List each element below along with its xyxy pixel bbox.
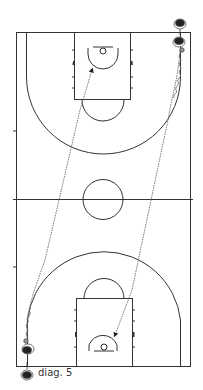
bottom-free-throw-arc [84,279,124,299]
bottom-hoop [101,344,107,350]
bottom-restricted-arc [89,335,117,351]
diagram-caption: diag. 5 [38,367,72,378]
top-three-point-line [27,33,181,155]
player-bottom-left-outside [21,362,33,380]
dribble-path-bottom-left-to-top-basket [27,70,92,340]
bottom-three-point-line [28,252,181,367]
bottom-lane-hashes [74,310,135,347]
top-restricted-arc [88,48,118,69]
bottom-key [77,299,133,367]
top-free-throw-arc [82,100,124,121]
dribble-paths [27,50,180,340]
dribble-wiggles [26,50,181,340]
player-top-right-dribbler [173,37,185,52]
basketball-court-diagram [0,0,203,390]
top-key [75,33,131,100]
court-lines [13,33,193,367]
dribble-path-top-right-to-bottom-basket [115,50,180,335]
top-hoop [100,48,106,54]
player-bottom-left-dribbler [22,339,34,354]
